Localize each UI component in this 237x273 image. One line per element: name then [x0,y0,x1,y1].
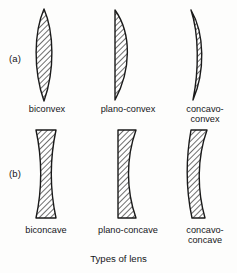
biconvex-svg [30,8,58,102]
lens-label-biconvex: biconvex [14,105,80,115]
lens-shape-concavo-concave [186,128,212,220]
lens-shape-biconvex [30,8,58,102]
lens-shape-concavo-convex [183,8,209,102]
lens-shape-plano-concave [114,128,140,220]
lens-shape-biconcave [32,128,60,220]
concavo-convex-svg [183,8,209,102]
lens-label-concavo-convex: concavo- convex [174,105,236,125]
concavo-concave-svg [186,128,212,220]
figure-caption: Types of lens [0,253,237,264]
biconcave-svg [32,128,60,220]
row-label-a: (a) [9,53,21,64]
types-of-lens-figure: (a) (b) biconvex plano-convex concavo- c… [0,0,237,273]
lens-label-concavo-concave: concavo- concave [174,226,236,246]
plano-concave-svg [114,128,140,220]
row-label-b: (b) [9,168,21,179]
lens-label-plano-concave: plano-concave [84,226,172,236]
lens-label-plano-convex: plano-convex [88,105,168,115]
lens-label-biconcave: biconcave [11,226,81,236]
lens-shape-plano-convex [110,8,136,102]
plano-convex-svg [110,8,136,102]
